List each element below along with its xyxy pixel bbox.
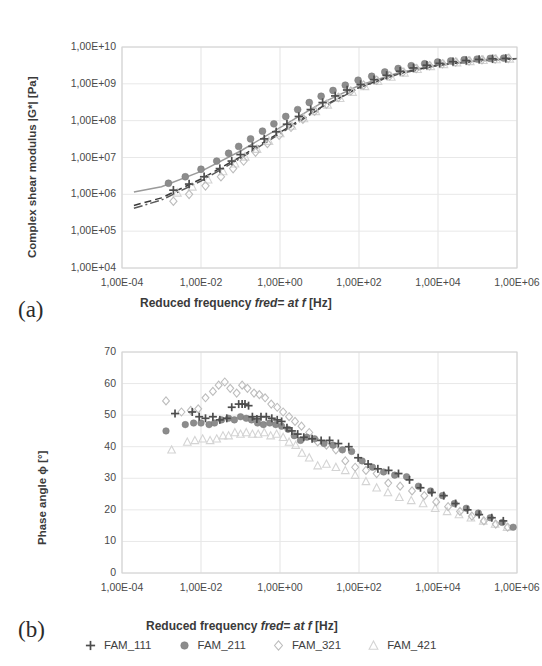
data-point-marker xyxy=(373,470,380,478)
data-point-marker xyxy=(211,420,218,427)
panel-a-x-tick-label: 1,00E+06 xyxy=(480,276,542,288)
data-point-marker xyxy=(182,173,189,180)
panel-b-x-tick-label: 1,00E-04 xyxy=(85,581,159,593)
panel-b-y-tick-label: 40 xyxy=(62,440,116,452)
data-point-marker xyxy=(225,150,232,157)
series-FAM_321 xyxy=(163,378,512,531)
fit-line-dashdot xyxy=(134,59,517,208)
data-point-marker xyxy=(209,413,217,421)
plus-marker-icon xyxy=(84,639,97,652)
data-point-marker xyxy=(270,120,277,127)
panel-a-x-tick-label: 1,00E+00 xyxy=(243,276,317,288)
data-point-marker xyxy=(190,420,197,427)
figure-legend: FAM_111FAM_211FAM_321FAM_421 xyxy=(84,634,524,656)
legend-item-fam_211[interactable]: FAM_211 xyxy=(178,639,246,652)
panel-a-x-tick-label: 1,00E+04 xyxy=(401,276,475,288)
panel-b-y-tick-label: 60 xyxy=(62,377,116,389)
data-point-marker xyxy=(237,413,244,420)
data-point-marker xyxy=(86,640,95,649)
data-point-marker xyxy=(510,524,517,531)
open-triangle-marker-icon xyxy=(367,639,380,652)
data-point-marker xyxy=(332,463,340,470)
panel-b-y-tick-label: 10 xyxy=(62,534,116,546)
panel-a-y-axis-title: Complex shear modulus |G*| [Pa] xyxy=(26,76,38,258)
panel-a-x-tick-label: 1,00E+02 xyxy=(322,276,396,288)
data-point-marker xyxy=(262,413,270,421)
legend-label: FAM_211 xyxy=(198,639,246,651)
data-point-marker xyxy=(292,417,299,425)
panel-b-x-axis-title: Reduced frequency fred= at f [Hz] xyxy=(146,619,338,633)
data-point-marker xyxy=(407,496,415,503)
data-point-marker xyxy=(170,197,177,205)
data-point-marker xyxy=(182,421,189,428)
legend-label: FAM_321 xyxy=(292,639,341,651)
panel-b-x-tick-label: 1,00E+02 xyxy=(322,581,396,593)
data-point-marker xyxy=(217,173,224,181)
data-point-marker xyxy=(421,492,428,500)
data-point-marker xyxy=(227,384,234,392)
data-point-marker xyxy=(209,387,216,395)
data-point-marker xyxy=(202,394,209,402)
data-point-marker xyxy=(184,438,192,445)
data-point-marker xyxy=(247,135,254,142)
data-point-marker xyxy=(298,449,306,456)
legend-item-fam_321[interactable]: FAM_321 xyxy=(272,639,341,652)
data-point-marker xyxy=(318,93,325,100)
data-point-marker xyxy=(373,484,381,491)
data-point-marker xyxy=(323,460,331,467)
data-point-marker xyxy=(419,500,427,507)
panel-a-x-axis-title: Reduced frequency fred= at f [Hz] xyxy=(140,296,332,310)
panel-b-y-tick-label: 30 xyxy=(62,471,116,483)
data-point-marker xyxy=(274,640,282,649)
legend-label: FAM_421 xyxy=(387,639,436,651)
panel-a-y-tick-label: 1,00E+10 xyxy=(42,40,116,52)
panel-b-y-tick-label: 50 xyxy=(62,408,116,420)
data-point-marker xyxy=(286,413,293,421)
data-point-marker xyxy=(163,397,170,405)
data-point-marker xyxy=(260,421,267,428)
legend-item-fam_421[interactable]: FAM_421 xyxy=(367,639,436,652)
data-point-marker xyxy=(248,417,255,424)
data-point-marker xyxy=(294,106,301,113)
filled-circle-marker-icon xyxy=(178,639,191,652)
panel-b-x-tick-label: 1,00E+04 xyxy=(401,581,475,593)
data-point-marker xyxy=(369,640,378,648)
legend-label: FAM_111 xyxy=(104,639,152,651)
panel-a-x-tick-label: 1,00E-04 xyxy=(85,276,159,288)
data-point-marker xyxy=(235,143,242,150)
panel-b-x-tick-label: 1,00E+06 xyxy=(480,581,542,593)
data-point-marker xyxy=(298,422,305,430)
data-point-marker xyxy=(187,406,194,414)
open-diamond-marker-icon xyxy=(272,639,285,652)
data-point-marker xyxy=(433,498,440,506)
data-point-marker xyxy=(397,482,404,490)
series-FAM_321 xyxy=(170,54,512,205)
data-point-marker xyxy=(282,113,289,120)
panel-a-y-tick-label: 1,00E+07 xyxy=(42,151,116,163)
panel-a-tag: (a) xyxy=(18,297,44,323)
data-point-marker xyxy=(260,429,268,436)
data-point-marker xyxy=(384,488,392,495)
panel-a-x-tick-label: 1,00E-02 xyxy=(164,276,238,288)
data-point-marker xyxy=(185,180,193,188)
data-point-marker xyxy=(233,389,240,397)
legend-item-fam_111[interactable]: FAM_111 xyxy=(84,639,152,652)
data-point-marker xyxy=(306,99,313,106)
data-point-marker xyxy=(213,158,220,165)
data-point-marker xyxy=(342,457,349,465)
data-point-marker xyxy=(305,454,313,461)
plot-frame xyxy=(122,352,517,573)
data-point-marker xyxy=(165,180,172,187)
fit-line-solid xyxy=(134,58,517,192)
data-point-marker xyxy=(171,410,179,418)
data-point-marker xyxy=(396,493,404,500)
data-point-marker xyxy=(385,479,392,487)
data-point-marker xyxy=(248,142,256,150)
data-point-marker xyxy=(228,403,236,411)
panel-b-x-tick-label: 1,00E+00 xyxy=(243,581,317,593)
panel-a-y-tick-label: 1,00E+05 xyxy=(42,224,116,236)
data-point-marker xyxy=(231,417,238,424)
panel-b-y-axis-title: Phase angle ϕ [°] xyxy=(36,451,48,545)
panel-a-y-tick-label: 1,00E+08 xyxy=(42,114,116,126)
panel-b-y-tick-label: 0 xyxy=(62,566,116,578)
